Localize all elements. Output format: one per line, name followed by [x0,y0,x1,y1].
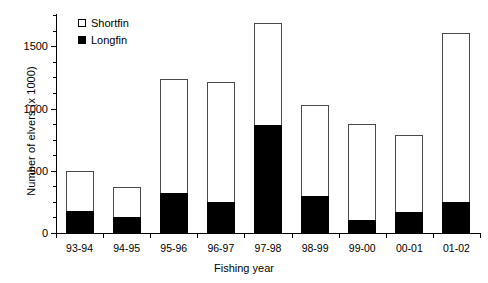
y-tick-major [51,46,56,47]
bar-00-01 [395,135,423,233]
bar-01-02 [442,33,470,233]
bar-98-99 [301,105,329,233]
y-tick-label: 1500 [24,41,48,52]
x-tick-label: 01-02 [443,242,470,254]
x-tick [56,233,57,238]
bar-95-96 [160,79,188,233]
bar-96-97 [207,82,235,233]
elver-catch-bar-chart: Number of elvers (x 1000) Fishing year 0… [0,0,488,283]
y-tick-minor [53,217,56,218]
y-tick-minor [53,77,56,78]
bar-segment-longfin [160,193,188,233]
bar-segment-longfin [113,217,141,233]
y-tick-label: 1000 [24,103,48,114]
y-tick-label: 500 [30,165,48,176]
x-tick [480,233,481,238]
x-tick [197,233,198,238]
bar-segment-longfin [207,202,235,233]
y-tick-minor [53,140,56,141]
bar-segment-longfin [442,202,470,233]
y-tick-minor [53,202,56,203]
y-tick-minor [53,31,56,32]
x-tick [292,233,293,238]
x-tick [103,233,104,238]
legend-label-longfin: Longfin [91,34,127,46]
legend-swatch-longfin-icon [78,36,86,44]
bar-99-00 [348,124,376,233]
bar-97-98 [254,23,282,233]
y-tick-minor [53,15,56,16]
bar-segment-longfin [254,125,282,233]
legend-item-shortfin: Shortfin [78,14,129,31]
y-tick-minor [53,93,56,94]
bar-segment-longfin [348,220,376,233]
x-tick [150,233,151,238]
x-tick-label: 99-00 [349,242,376,254]
legend-item-longfin: Longfin [78,31,129,48]
y-tick-major [51,171,56,172]
y-axis-label: Number of elvers (x 1000) [25,46,37,216]
y-axis-line [56,14,57,233]
bar-94-95 [113,187,141,233]
x-tick-label: 96-97 [207,242,234,254]
x-tick-label: 98-99 [302,242,329,254]
legend-swatch-shortfin-icon [78,19,86,27]
x-tick [386,233,387,238]
y-tick-minor [53,186,56,187]
legend-label-shortfin: Shortfin [91,17,129,29]
x-axis-label: Fishing year [0,262,488,274]
bar-93-94 [66,171,94,233]
bar-segment-longfin [301,196,329,233]
x-tick-label: 00-01 [396,242,423,254]
y-tick-minor [53,62,56,63]
x-axis-line [56,233,480,234]
y-tick-minor [53,124,56,125]
x-tick-label: 93-94 [66,242,93,254]
y-tick-minor [53,155,56,156]
bar-segment-longfin [395,212,423,233]
x-tick-label: 97-98 [255,242,282,254]
y-tick-major [51,109,56,110]
bar-segment-longfin [66,211,94,233]
x-tick-label: 94-95 [113,242,140,254]
x-tick [339,233,340,238]
y-tick-label: 0 [42,228,48,239]
chart-legend: Shortfin Longfin [78,14,129,48]
x-tick-label: 95-96 [160,242,187,254]
x-tick [244,233,245,238]
x-tick [433,233,434,238]
